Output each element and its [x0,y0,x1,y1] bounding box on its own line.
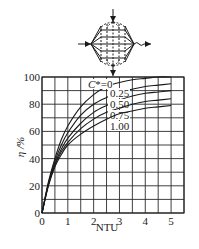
y-axis-label: η /% [14,137,26,157]
crossflow-diagram-icon [78,9,151,76]
x-tick-label: 1 [65,215,71,227]
axis-ticks: 012345020406080100 [24,71,175,227]
plot-area: C*=00.250.500.751.00 [42,77,184,213]
x-tick-label: 0 [39,215,45,227]
x-tick-label: 4 [143,215,149,227]
y-tick-label: 60 [29,125,41,137]
y-tick-label: 40 [29,153,41,165]
y-tick-label: 0 [35,207,41,219]
y-tick-label: 20 [29,180,41,192]
x-tick-label: 5 [168,215,174,227]
y-tick-label: 100 [24,71,41,83]
chart-canvas: C*=00.250.500.751.00 012345020406080100 … [0,0,199,249]
curve-label: 1.00 [110,120,130,132]
y-tick-label: 80 [29,98,41,110]
x-axis-label: NTU [96,221,119,233]
